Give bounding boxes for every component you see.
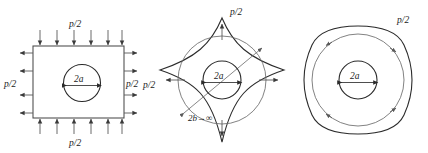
left-load-arrows — [20, 53, 33, 113]
technical-diagram-svg: p/2 p/2 p/2 — [0, 0, 428, 153]
figure-container: p/2 p/2 p/2 — [0, 0, 428, 153]
astroid-top-load-label: p/2 — [229, 7, 242, 17]
circle-flow-arrows — [326, 42, 396, 118]
panel-2-astroid-shape: 2b→∞ p/2 p/2 2a — [142, 7, 284, 142]
bottom-load-arrows — [40, 119, 122, 134]
flow-arrow-bottom-left — [326, 114, 332, 118]
hole-diameter-label: 2a — [214, 71, 224, 81]
left-load-label: p/2 — [3, 79, 16, 89]
panel-1-rectangular-plate: p/2 p/2 p/2 — [3, 19, 138, 148]
top-load-label: p/2 — [68, 19, 81, 29]
flow-arrow-bottom-right — [390, 108, 396, 112]
outer-dimension-label: 2b→∞ — [188, 113, 212, 123]
top-load-arrows — [40, 30, 122, 45]
bottom-load-label: p/2 — [68, 138, 81, 148]
panel-3-squircle-shape: p/2 2a — [304, 15, 412, 134]
right-load-label: p/2 — [125, 79, 138, 89]
squircle-load-label: p/2 — [396, 15, 409, 25]
flow-arrow-top-right — [390, 48, 396, 52]
hole-diameter-label: 2a — [350, 71, 360, 81]
hole-diameter-label: 2a — [74, 74, 84, 84]
astroid-left-load-label: p/2 — [142, 80, 155, 90]
flow-arrow-top-left — [326, 42, 332, 46]
